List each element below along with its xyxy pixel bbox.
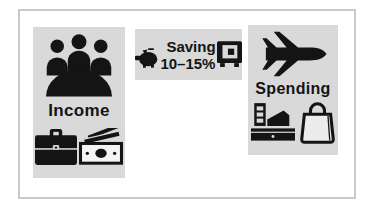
spending-label: Spending [255,80,330,98]
budget-diagram: Income [0,0,376,212]
briefcase-icon [35,129,77,165]
spending-icons-row [251,102,335,144]
piggy-bank-icon [135,48,159,68]
spending-panel: Spending [248,25,338,155]
banknotes-icon [79,128,123,165]
income-icons-row [35,128,123,165]
shopping-bag-icon [300,102,335,144]
safe-icon [217,41,242,68]
meeting-people-icon [40,32,118,98]
cash-register-icon [251,103,295,144]
airplane-icon [257,29,329,79]
saving-label: Saving [166,38,215,55]
saving-panel: Saving 10–15% [135,29,242,80]
saving-percentage: 10–15% [160,55,215,72]
income-panel: Income [33,27,125,178]
saving-text: Saving 10–15% [160,38,215,72]
income-label: Income [48,101,109,121]
